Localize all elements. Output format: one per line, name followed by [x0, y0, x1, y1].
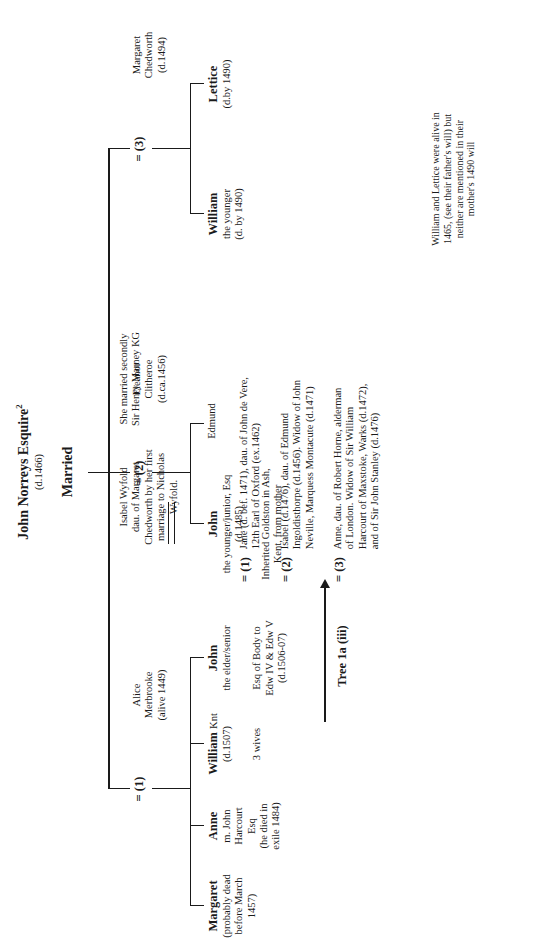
footnote-line-3: neither are mentioned in their	[454, 14, 466, 344]
wife-entry-3-ordinal: (3)	[332, 557, 346, 572]
isabel-wyfold-line-5: Wyfold.	[168, 402, 180, 592]
wife-entry-3-line-3: Harcourt of Maxstoke, Warks (d.1472),	[357, 384, 369, 549]
wife-entry-2-line-2: Ingoldisthorpe (d.1456). Widow of John	[291, 380, 303, 549]
child-lettice-detail-1: (d.by 1490)	[221, 24, 233, 144]
wife-1-line-1: Alice	[131, 654, 143, 736]
isabel-second-marriage-line-2: Sir Henry Marney KG	[130, 284, 142, 474]
m1-child-john-drop	[190, 657, 204, 658]
footnote-line-4: mother's 1490 will	[465, 14, 477, 344]
m2-child-edmund-drop	[190, 423, 204, 424]
wife-entry-3-equals: =	[332, 575, 346, 582]
wife-entry-3-marker: = (3)	[332, 557, 347, 582]
child-william-younger: William the younger (d. by 1490)	[206, 149, 246, 279]
wife-entry-3-line-4: and of Sir John Stanley (d.1476)	[369, 384, 381, 549]
m2-children-bar	[190, 424, 191, 524]
root-spine	[108, 149, 110, 789]
wife-1-line-2: Merbrooke	[143, 654, 155, 736]
child-john-younger-extra-1: Inherited Goldston in Ash,	[260, 444, 272, 604]
child-john-elder: John the elder/senior Esq of Body to Edw…	[206, 598, 288, 718]
child-william-knt-forename: William	[206, 732, 220, 775]
m1-child-stem	[152, 788, 190, 789]
child-william-younger-name: William	[206, 149, 221, 279]
m2-child-john-drop	[190, 523, 204, 524]
m1-children-bar	[190, 658, 191, 906]
marriage-1-wife: Alice Merbrooke (alive 1449)	[131, 654, 168, 834]
wife-entry-2-line-3: Neville, Marquess Montacute (d.1471)	[304, 380, 316, 549]
m3-children-bar	[190, 84, 191, 214]
m3-drop	[108, 148, 130, 149]
child-john-elder-extra-2: Edw IV & Edw V	[264, 598, 276, 718]
married-label: Married	[60, 300, 77, 644]
rotated-chart-container: John Norreys Esquire2 (d.1466) Married =…	[0, 0, 546, 944]
child-william-younger-detail-2: (d. by 1490)	[233, 149, 245, 279]
isabel-second-marriage-note: She married secondly Sir Henry Marney KG	[118, 284, 143, 474]
m1-child-margaret-drop	[190, 905, 204, 906]
child-john-younger-name: John	[206, 444, 221, 604]
m1-drop	[108, 788, 130, 789]
tree-reference: Tree 1a (iii)	[335, 586, 350, 726]
root-person-name: John Norreys Esquire	[16, 409, 31, 540]
root-stem	[88, 472, 108, 473]
wife-3-line-2: Chedworth	[143, 14, 155, 96]
wife-3-line-3: (d.1494)	[156, 14, 168, 96]
child-lettice-name: Lettice	[206, 24, 221, 144]
wife-3-line-1: Margaret	[131, 14, 143, 96]
child-anne-detail-5: exile 1484)	[270, 776, 282, 876]
child-edmund: Edmund	[206, 376, 218, 466]
wife-entry-3-line-2: of London. Widow of Sir William	[344, 384, 356, 549]
m1-child-william-drop	[190, 743, 204, 744]
m1-child-anne-drop	[190, 825, 204, 826]
child-john-younger: John the younger/junior, Esq (d.1485) In…	[206, 444, 284, 604]
footnote-line-1: William and Lettice were alive in	[430, 14, 442, 344]
child-lettice: Lettice (d.by 1490)	[206, 24, 233, 144]
marriage-3-wife: Margaret Chedworth (d.1494)	[131, 14, 168, 194]
three-wives-arrow-line	[324, 587, 326, 722]
child-john-younger-detail-2: (d.1485)	[233, 444, 245, 604]
isabel-wyfold-line-4: marriage to Nicholas	[155, 402, 167, 592]
child-john-elder-detail-1: the elder/senior	[221, 598, 233, 718]
footnote: William and Lettice were alive in 1465, …	[430, 14, 477, 344]
footnote-line-2: 1465, (see their father's will) but	[442, 14, 454, 344]
root-footnote-marker: 2	[14, 404, 24, 408]
m3-child-lettice-drop	[190, 83, 204, 84]
page-title: John Norreys Esquire2	[14, 300, 32, 644]
child-john-elder-extra-3: (d.1506-07)	[276, 598, 288, 718]
child-john-elder-extra-1: Esq of Body to	[251, 598, 263, 718]
m3-child-stem	[152, 148, 190, 149]
wife-entry-3-line-1: Anne, dau. of Robert Horne, alderman	[332, 384, 344, 549]
isabel-second-marriage-line-1: She married secondly	[118, 284, 130, 474]
child-john-younger-extra-2: Kent, from mother	[272, 444, 284, 604]
root-person-death: (d.1466)	[33, 300, 45, 644]
family-tree-canvas: John Norreys Esquire2 (d.1466) Married =…	[0, 0, 546, 944]
child-john-elder-name: John	[206, 598, 221, 718]
child-william-younger-detail-1: the younger	[221, 149, 233, 279]
child-john-younger-detail-1: the younger/junior, Esq	[221, 444, 233, 604]
m3-child-william-drop	[190, 213, 204, 214]
child-edmund-name: Edmund	[206, 376, 218, 466]
wife-1-line-3: (alive 1449)	[156, 654, 168, 736]
isabel-wyfold-line-3: Chedworth by her first	[143, 402, 155, 592]
